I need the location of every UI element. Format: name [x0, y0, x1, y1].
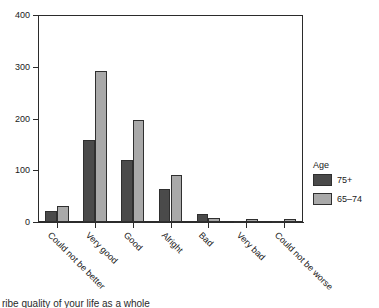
- bar: [159, 189, 171, 222]
- y-axis-tick: [33, 170, 38, 171]
- y-axis-tick: [33, 119, 38, 120]
- y-axis-line: [38, 15, 39, 223]
- y-axis-tick-label-wrap: 200: [0, 115, 30, 124]
- legend-entry: 65–74: [313, 193, 379, 205]
- legend-entry: 75+: [313, 174, 379, 186]
- bar: [133, 120, 145, 222]
- bar: [197, 214, 209, 222]
- bar: [246, 219, 258, 222]
- bar: [208, 218, 220, 222]
- bar: [83, 140, 95, 222]
- x-axis-tick-label: Good: [122, 230, 145, 253]
- y-axis-tick-label-wrap: 0: [0, 218, 30, 227]
- bar: [171, 175, 183, 222]
- x-axis-tick-label: Could not be worse: [273, 230, 335, 292]
- legend-swatch: [313, 193, 332, 205]
- legend: Age 75+65–74: [313, 160, 379, 212]
- y-axis-tick: [33, 15, 38, 16]
- y-axis-tick-label: 200: [0, 115, 30, 124]
- x-axis-tick: [95, 223, 96, 228]
- bar-chart: 0100200300400 Could not be betterVery go…: [0, 0, 379, 308]
- y-axis-tick-label-wrap: 300: [0, 63, 30, 72]
- legend-label: 65–74: [337, 194, 362, 205]
- bar: [272, 221, 284, 223]
- bar: [234, 221, 246, 223]
- x-axis-tick: [57, 223, 58, 228]
- x-axis-tick: [246, 223, 247, 228]
- legend-entries: 75+65–74: [313, 174, 379, 205]
- y-axis-tick: [33, 67, 38, 68]
- y-axis-tick-label-wrap: 100: [0, 166, 30, 175]
- legend-swatch: [313, 174, 332, 186]
- legend-title: Age: [313, 160, 379, 171]
- y-axis-tick-label: 100: [0, 166, 30, 175]
- x-axis-tick-label: Very good: [84, 230, 120, 266]
- bar: [284, 219, 296, 222]
- x-axis-tick: [284, 223, 285, 228]
- x-axis-tick: [171, 223, 172, 228]
- bar: [121, 160, 133, 222]
- y-axis-tick-label: 400: [0, 11, 30, 20]
- y-axis-tick-label: 0: [0, 218, 30, 227]
- figure-caption-clipped: ribe quality of your life as a whole: [2, 299, 242, 308]
- figure-caption-text: ribe quality of your life as a whole: [2, 299, 242, 308]
- x-axis-tick-label: Alright: [160, 230, 185, 255]
- x-axis-tick: [133, 223, 134, 228]
- y-axis-tick-label-wrap: 400: [0, 11, 30, 20]
- bar: [45, 211, 57, 222]
- x-axis-tick-label: Bad: [197, 230, 215, 248]
- x-axis-tick: [208, 223, 209, 228]
- legend-label: 75+: [337, 175, 352, 186]
- x-axis-tick-label: Very bad: [235, 230, 267, 262]
- bar: [57, 206, 69, 222]
- bar: [95, 71, 107, 222]
- y-axis-tick-label: 300: [0, 63, 30, 72]
